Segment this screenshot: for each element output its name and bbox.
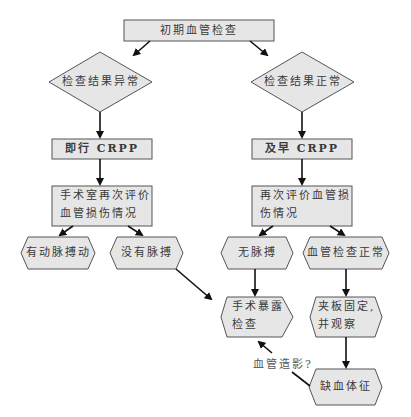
pulse-present-text: 有动脉搏动	[21, 237, 95, 269]
splint-line1: 夹板固定,	[318, 298, 376, 316]
crpp-now-text: 即行 CRPP	[52, 139, 152, 159]
arrow-nopulse-left-explore	[176, 269, 211, 299]
start-node-text: 初期血管检查	[124, 20, 274, 41]
splint-text: 夹板固定, 并观察	[310, 298, 382, 336]
no-pulse-left-text: 没有脉搏	[110, 237, 183, 269]
reassess-or-line1: 手术室再次评价	[60, 187, 151, 205]
vessel-normal-text: 血管检查正常	[303, 237, 389, 269]
arrow-reassess-nopulse	[260, 226, 273, 235]
explore-line1: 手术暴露	[232, 298, 284, 316]
splint-line2: 并观察	[318, 316, 357, 334]
reassess-line2: 伤情况	[260, 205, 299, 223]
reassess-or-line2: 血管损伤情况	[60, 205, 138, 223]
line-ischemia-angio	[292, 372, 310, 386]
abnormal-node-text: 检查结果异常	[49, 72, 152, 92]
arrow-start-abnormal	[134, 41, 150, 55]
reassess-line1: 再次评价血管损	[260, 187, 351, 205]
reassess-or-text: 手术室再次评价 血管损伤情况	[52, 187, 152, 225]
arrow-reassess-or-pulse	[60, 226, 73, 235]
angiography-label: 血管造影?	[253, 355, 313, 371]
arrow-angio-explore	[259, 342, 272, 353]
reassess-text: 再次评价血管损 伤情况	[252, 187, 352, 225]
explore-line2: 检查	[232, 316, 258, 334]
arrow-start-normal	[250, 41, 267, 55]
arrow-reassess-or-nopulse	[128, 226, 142, 235]
no-pulse-right-text: 无脉搏	[221, 237, 293, 269]
arrow-reassess-normal	[330, 226, 344, 235]
crpp-early-text: 及早 CRPP	[252, 139, 352, 159]
explore-text: 手术暴露 检查	[222, 298, 292, 336]
normal-node-text: 检查结果正常	[251, 72, 354, 92]
ischemia-text: 缺血体征	[309, 369, 382, 405]
